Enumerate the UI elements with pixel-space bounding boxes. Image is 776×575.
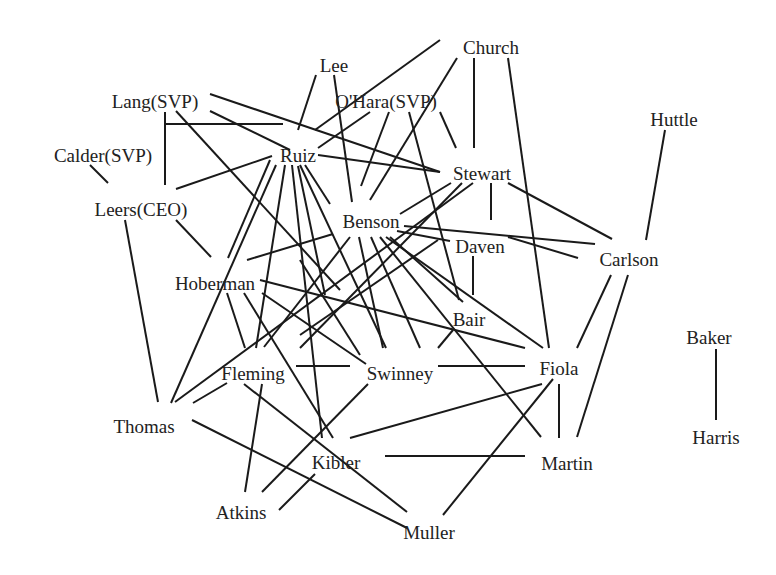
node-bair: Bair <box>453 310 486 329</box>
node-huttle: Huttle <box>650 110 698 129</box>
edge-carlson-fiola <box>577 275 611 348</box>
edge-fleming-muller <box>244 384 407 512</box>
node-kibler: Kibler <box>312 453 361 472</box>
node-benson: Benson <box>343 212 400 231</box>
node-carlson: Carlson <box>599 250 658 269</box>
edge-layer <box>0 0 776 575</box>
node-swinney: Swinney <box>367 364 434 383</box>
node-stewart: Stewart <box>453 164 511 183</box>
node-harris: Harris <box>692 428 739 447</box>
node-muller: Muller <box>403 523 455 542</box>
node-thomas: Thomas <box>113 417 174 436</box>
edge-hoberman-fleming <box>227 293 245 348</box>
node-church: Church <box>463 38 519 57</box>
node-calder: Calder(SVP) <box>54 146 152 165</box>
edge-fiola-muller <box>443 379 553 515</box>
node-fiola: Fiola <box>539 359 578 378</box>
edge-leers-hoberman <box>176 220 211 257</box>
network-diagram: ChurchLeeLang(SVP)O'Hara(SVP)HuttleCalde… <box>0 0 776 575</box>
edge-lee-ruiz <box>298 75 316 130</box>
edge-stewart-carlson <box>508 183 612 239</box>
node-daven: Daven <box>455 237 505 256</box>
edge-stewart-benson <box>400 183 451 214</box>
edge-church-fiola <box>508 58 549 348</box>
node-atkins: Atkins <box>216 503 267 522</box>
node-hoberman: Hoberman <box>175 274 255 293</box>
node-martin: Martin <box>541 454 593 473</box>
node-ruiz: Ruiz <box>280 146 316 165</box>
edge-kibler-atkins <box>279 474 315 510</box>
edge-ohara-stewart <box>440 112 456 148</box>
edge-fiola-kibler <box>350 384 542 438</box>
edge-stewart-swinney <box>300 183 462 348</box>
node-fleming: Fleming <box>221 364 284 383</box>
node-ohara: O'Hara(SVP) <box>335 92 437 111</box>
edge-leers-ruiz <box>176 156 272 189</box>
edge-benson-hoberman <box>247 234 333 260</box>
edge-carlson-martin <box>577 275 628 437</box>
edge-lang-swinney <box>176 111 340 290</box>
edge-leers-thomas <box>125 220 158 402</box>
node-leers: Leers(CEO) <box>95 200 188 219</box>
edge-huttle-carlson <box>646 130 665 240</box>
edge-bair-swinney <box>438 330 453 348</box>
edge-calder-leers <box>90 165 108 183</box>
node-lee: Lee <box>320 56 348 75</box>
edge-daven-carlson <box>508 237 578 258</box>
edge-fleming-atkins <box>245 384 262 492</box>
node-baker: Baker <box>686 328 731 347</box>
node-lang: Lang(SVP) <box>112 92 199 111</box>
